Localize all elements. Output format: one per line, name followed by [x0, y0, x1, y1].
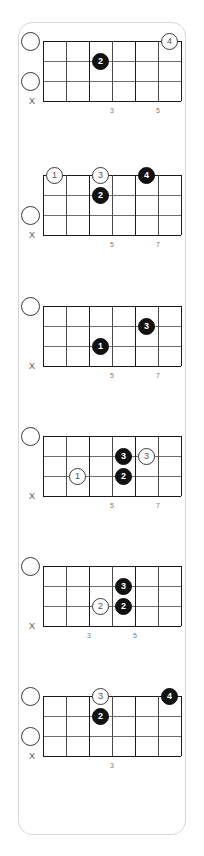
fret-number-label: 5 — [128, 632, 142, 639]
fret-number-label: 5 — [105, 372, 119, 379]
finger-dot: 4 — [161, 688, 178, 705]
open-string-circle — [21, 427, 40, 446]
fret-number-label: 7 — [151, 241, 165, 248]
fret-number-label: 3 — [105, 107, 119, 114]
fretboard-grid — [43, 41, 181, 101]
fret-line — [135, 436, 136, 496]
fret-line — [181, 436, 182, 496]
fret-line — [112, 696, 113, 756]
finger-dot: 3 — [138, 448, 155, 465]
finger-dot: 2 — [92, 187, 109, 204]
finger-dot: 2 — [115, 598, 132, 615]
finger-dot: 4 — [161, 33, 178, 50]
fret-line — [89, 696, 90, 756]
fretboard-grid — [43, 696, 181, 756]
fret-line — [158, 436, 159, 496]
fret-number-label: 3 — [105, 762, 119, 769]
fret-number-label: 7 — [151, 502, 165, 509]
finger-dot: 4 — [138, 167, 155, 184]
fret-number-label: 5 — [105, 502, 119, 509]
fret-line — [112, 436, 113, 496]
string-line — [43, 496, 181, 497]
fretboard-grid — [43, 436, 181, 496]
fret-line — [158, 306, 159, 366]
fret-line — [135, 306, 136, 366]
string-line — [43, 235, 181, 236]
fret-line — [43, 306, 44, 366]
finger-dot: 3 — [138, 318, 155, 335]
fret-line — [181, 306, 182, 366]
muted-string-marker: X — [29, 622, 35, 631]
open-string-circle — [21, 32, 40, 51]
chord-chart-card: X2435X132457X1357X133257X32235X3243 — [18, 22, 186, 835]
fret-line — [135, 175, 136, 235]
fret-number-label: 7 — [151, 372, 165, 379]
finger-dot: 2 — [92, 53, 109, 70]
finger-dot: 1 — [46, 167, 63, 184]
fret-line — [66, 566, 67, 626]
finger-dot: 3 — [92, 167, 109, 184]
fret-line — [112, 41, 113, 101]
fret-line — [158, 175, 159, 235]
open-string-circle — [21, 557, 40, 576]
fret-number-label: 3 — [82, 632, 96, 639]
fret-line — [158, 696, 159, 756]
open-string-circle — [21, 206, 40, 225]
finger-dot: 3 — [115, 448, 132, 465]
fret-line — [66, 306, 67, 366]
finger-dot: 2 — [92, 708, 109, 725]
open-string-circle — [21, 72, 40, 91]
fret-line — [135, 696, 136, 756]
fret-line — [181, 566, 182, 626]
fret-line — [112, 566, 113, 626]
fret-line — [66, 41, 67, 101]
fret-line — [158, 41, 159, 101]
finger-dot: 1 — [69, 468, 86, 485]
fret-line — [89, 566, 90, 626]
fret-line — [66, 436, 67, 496]
fretboard-grid — [43, 306, 181, 366]
fret-line — [89, 306, 90, 366]
open-string-circle — [21, 687, 40, 706]
fret-line — [112, 306, 113, 366]
fret-line — [181, 175, 182, 235]
fret-line — [66, 175, 67, 235]
fret-line — [181, 696, 182, 756]
fret-line — [89, 41, 90, 101]
finger-dot: 3 — [92, 688, 109, 705]
string-line — [43, 626, 181, 627]
finger-dot: 2 — [115, 468, 132, 485]
muted-string-marker: X — [29, 752, 35, 761]
fret-line — [181, 41, 182, 101]
finger-dot: 1 — [92, 338, 109, 355]
fret-line — [43, 566, 44, 626]
fret-line — [89, 175, 90, 235]
fret-line — [89, 436, 90, 496]
muted-string-marker: X — [29, 362, 35, 371]
fret-line — [135, 41, 136, 101]
fretboard-grid — [43, 175, 181, 235]
open-string-circle — [21, 297, 40, 316]
chord-chart-page: X2435X132457X1357X133257X32235X3243 — [0, 0, 204, 856]
fret-line — [158, 566, 159, 626]
open-string-circle — [21, 727, 40, 746]
string-line — [43, 366, 181, 367]
muted-string-marker: X — [29, 492, 35, 501]
fret-line — [43, 175, 44, 235]
string-line — [43, 101, 181, 102]
fret-line — [112, 175, 113, 235]
fret-number-label: 5 — [151, 107, 165, 114]
muted-string-marker: X — [29, 97, 35, 106]
finger-dot: 2 — [92, 598, 109, 615]
fret-line — [43, 41, 44, 101]
string-line — [43, 756, 181, 757]
fretboard-grid — [43, 566, 181, 626]
fret-line — [135, 566, 136, 626]
fret-line — [43, 436, 44, 496]
finger-dot: 3 — [115, 578, 132, 595]
fret-number-label: 5 — [105, 241, 119, 248]
muted-string-marker: X — [29, 231, 35, 240]
fret-line — [66, 696, 67, 756]
fret-line — [43, 696, 44, 756]
